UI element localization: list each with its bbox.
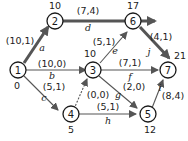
node-1-label: 1 bbox=[15, 65, 21, 76]
network-diagram-canvas: (10,1) a (7,4) d (10,0) b (5,1) c (5,1) … bbox=[0, 0, 188, 141]
node-6: 6 17 bbox=[125, 0, 141, 29]
node-3: 3 10 bbox=[84, 48, 101, 78]
node-2: 2 10 bbox=[47, 0, 63, 29]
edge-j-weight: (4,1) bbox=[150, 31, 173, 42]
node-5-label: 5 bbox=[145, 109, 151, 120]
node-1: 1 0 bbox=[10, 62, 26, 91]
edge-g-name: g bbox=[115, 89, 121, 100]
network-diagram: (10,1) a (7,4) d (10,0) b (5,1) c (5,1) … bbox=[0, 0, 188, 141]
node-4-label: 4 bbox=[68, 109, 74, 120]
edge-f-weight: (7,1) bbox=[119, 57, 142, 68]
edge-c-weight: (5,1) bbox=[43, 81, 66, 92]
node-1-time: 0 bbox=[14, 80, 20, 91]
node-7-time: 21 bbox=[174, 50, 186, 61]
edge-i-name: i bbox=[158, 82, 161, 93]
edge-c-name: c bbox=[41, 92, 47, 103]
node-5-time: 12 bbox=[144, 124, 156, 135]
edge-dummy-weight: (0,0) bbox=[87, 89, 110, 100]
edge-d-weight: (7,4) bbox=[77, 5, 100, 16]
edge-d-name: d bbox=[85, 22, 91, 33]
node-2-time: 10 bbox=[49, 0, 61, 11]
edge-a-weight: (10,1) bbox=[6, 35, 35, 46]
node-4-time: 5 bbox=[68, 124, 74, 135]
edge-i-weight: (8,4) bbox=[162, 90, 185, 101]
node-6-label: 6 bbox=[130, 16, 136, 27]
node-6-time: 17 bbox=[127, 0, 139, 11]
node-5: 5 12 bbox=[140, 106, 156, 135]
edge-e-name: e bbox=[112, 45, 118, 56]
edge-dummy bbox=[74, 79, 87, 109]
edge-g-weight: (2,0) bbox=[123, 81, 146, 92]
node-3-label: 3 bbox=[90, 65, 96, 76]
node-3-time: 10 bbox=[84, 48, 96, 59]
node-2-label: 2 bbox=[52, 16, 58, 27]
edge-h-name: h bbox=[105, 115, 111, 126]
node-4: 4 5 bbox=[63, 106, 79, 135]
edge-b-name: b bbox=[49, 70, 55, 81]
edge-j-name: j bbox=[146, 46, 151, 57]
node-7-label: 7 bbox=[165, 65, 171, 76]
edge-b-weight: (10,0) bbox=[38, 58, 67, 69]
edge-a-name: a bbox=[39, 42, 45, 53]
edge-h-weight: (5,1) bbox=[97, 101, 120, 112]
